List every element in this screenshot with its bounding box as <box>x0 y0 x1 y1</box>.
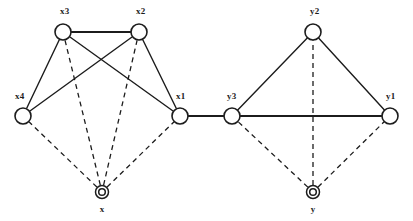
dashed-edge-x-x1 <box>107 122 174 187</box>
node-label-y2: y2 <box>310 6 320 16</box>
node-label-x2: x2 <box>136 6 146 16</box>
node-x1[interactable] <box>172 108 188 124</box>
node-x4[interactable] <box>15 108 31 124</box>
dashed-edge-layer <box>29 40 384 187</box>
node-label-y1: y1 <box>386 91 396 101</box>
dashed-edge-y-y3 <box>238 122 308 187</box>
node-label-x1: x1 <box>176 91 186 101</box>
solid-edge-x2-x1 <box>143 40 176 109</box>
node-y3[interactable] <box>224 108 240 124</box>
dashed-edge-y-y1 <box>318 122 384 187</box>
root-node-y-inner-ring <box>310 189 317 196</box>
dashed-edge-x-x3 <box>65 40 100 185</box>
node-x3[interactable] <box>55 24 71 40</box>
node-label-x: x <box>100 204 105 214</box>
graph-svg: x3x2x4x1y2y3y1xy <box>0 0 413 221</box>
node-label-layer: x3x2x4x1y2y3y1xy <box>15 6 396 214</box>
node-y2[interactable] <box>305 24 321 40</box>
node-layer <box>15 24 398 199</box>
node-label-y3: y3 <box>227 91 237 101</box>
solid-edge-y3-y2 <box>238 38 307 110</box>
node-label-y: y <box>311 204 316 214</box>
node-x2[interactable] <box>131 24 147 40</box>
root-node-x-inner-ring <box>99 189 106 196</box>
node-y1[interactable] <box>382 108 398 124</box>
dashed-edge-x-x2 <box>104 40 137 185</box>
node-label-x4: x4 <box>15 91 25 101</box>
node-label-x3: x3 <box>60 6 70 16</box>
solid-edge-x2-x4 <box>30 37 132 111</box>
solid-edge-y2-y1 <box>319 38 384 109</box>
solid-edge-x3-x4 <box>27 40 60 108</box>
diagram-canvas: x3x2x4x1y2y3y1xy <box>0 0 413 221</box>
solid-edge-x3-x1 <box>70 37 173 111</box>
